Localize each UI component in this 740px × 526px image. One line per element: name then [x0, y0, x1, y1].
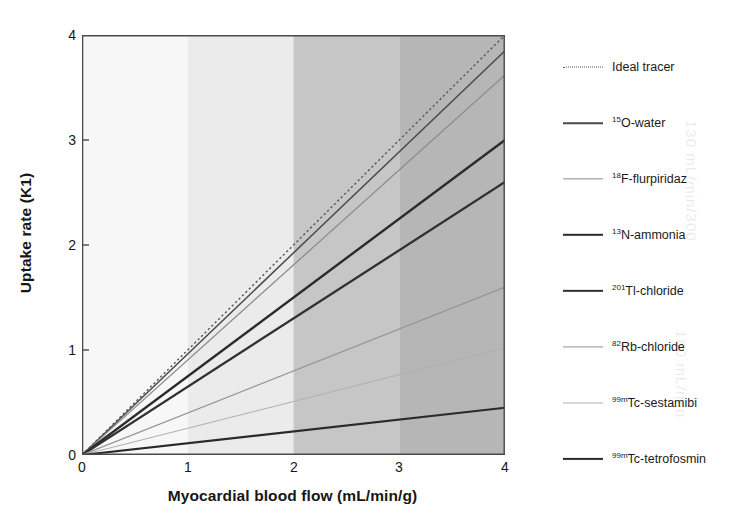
x-tick-label-4: 4 — [490, 459, 520, 475]
y-axis-title: Uptake rate (K1) — [17, 103, 35, 363]
legend-label-isotope: 99m — [612, 395, 628, 404]
legend-swatch-13N-ammonia — [563, 229, 603, 241]
x-tick-label-3: 3 — [384, 459, 414, 475]
y-tick-label-4: 4 — [50, 27, 76, 43]
legend-item-99mTc-sestamibi[interactable]: 99mTc-sestamibi — [563, 394, 739, 412]
legend-item-99mTc-tetrofosmin[interactable]: 99mTc-tetrofosmin — [563, 450, 739, 468]
y-tick-label-2: 2 — [50, 237, 76, 253]
legend-label-isotope: 82 — [612, 339, 621, 348]
legend-swatch-99mTc-sestamibi — [563, 397, 603, 409]
background-band-0 — [82, 35, 188, 455]
x-axis-title: Myocardial blood flow (mL/min/g) — [0, 487, 585, 505]
background-band-3 — [399, 35, 505, 455]
legend-label-99mTc-sestamibi: 99mTc-sestamibi — [612, 397, 697, 410]
legend-label-82Rb-chloride: 82Rb-chloride — [612, 341, 685, 354]
legend-item-13N-ammonia[interactable]: 13N-ammonia — [563, 226, 739, 244]
background-band-2 — [294, 35, 400, 455]
legend-item-18F-flurpiridaz[interactable]: 18F-flurpiridaz — [563, 170, 739, 188]
chart-legend: Ideal tracer15O-water18F-flurpiridaz13N-… — [563, 36, 739, 468]
legend-label-isotope: 18 — [612, 171, 621, 180]
y-tick-label-1: 1 — [50, 342, 76, 358]
chart-canvas — [82, 35, 505, 455]
legend-swatch-Ideal tracer — [563, 61, 603, 73]
legend-label-isotope: 99m — [612, 451, 628, 460]
legend-swatch-201Tl-chloride — [563, 285, 603, 297]
x-tick-label-0: 0 — [67, 459, 97, 475]
legend-label-Ideal tracer: Ideal tracer — [612, 61, 675, 74]
legend-label-15O-water: 15O-water — [612, 117, 665, 130]
x-tick-label-2: 2 — [279, 459, 309, 475]
legend-item-15O-water[interactable]: 15O-water — [563, 114, 739, 132]
x-tick-label-1: 1 — [173, 459, 203, 475]
legend-label-18F-flurpiridaz: 18F-flurpiridaz — [612, 173, 687, 186]
legend-item-201Tl-chloride[interactable]: 201Tl-chloride — [563, 282, 739, 300]
legend-label-isotope: 201 — [612, 283, 625, 292]
plot-area — [82, 35, 505, 455]
legend-swatch-99mTc-tetrofosmin — [563, 453, 603, 465]
legend-item-82Rb-chloride[interactable]: 82Rb-chloride — [563, 338, 739, 356]
figure: 130 mL/min/300 180 mL/min 4 3 2 1 0 0 1 … — [0, 0, 740, 526]
legend-label-99mTc-tetrofosmin: 99mTc-tetrofosmin — [612, 453, 706, 466]
legend-label-isotope: 15 — [612, 115, 621, 124]
legend-label-13N-ammonia: 13N-ammonia — [612, 229, 686, 242]
legend-label-201Tl-chloride: 201Tl-chloride — [612, 285, 684, 298]
y-tick-label-3: 3 — [50, 132, 76, 148]
legend-item-Ideal tracer[interactable]: Ideal tracer — [563, 58, 739, 76]
legend-swatch-82Rb-chloride — [563, 341, 603, 353]
legend-swatch-18F-flurpiridaz — [563, 173, 603, 185]
legend-label-isotope: 13 — [612, 227, 621, 236]
legend-swatch-15O-water — [563, 117, 603, 129]
